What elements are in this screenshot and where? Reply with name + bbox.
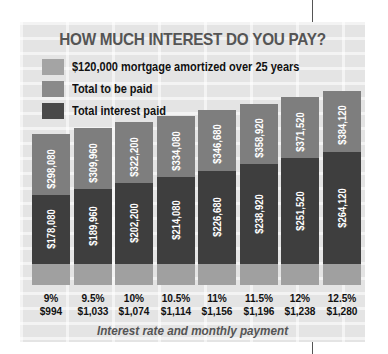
interest-value-label: $189,960 (87, 207, 99, 246)
bar-segment-principal (323, 264, 361, 285)
total-value-label: $334,080 (170, 131, 182, 170)
bar-segment-interest: $226,680 (198, 171, 236, 264)
chart-title: HOW MUCH INTEREST DO YOU PAY? (37, 30, 348, 50)
bar-segment-total: $298,080 (32, 134, 70, 195)
bar-segment-interest: $214,080 (157, 177, 195, 264)
total-value-label: $298,080 (45, 149, 57, 188)
bar-2: $322,200$202,200 (115, 122, 153, 285)
x-tick-label: 9%$994 (29, 292, 73, 318)
leader-line-bottom (312, 342, 313, 354)
bar-5: $358,920$238,920 (240, 104, 278, 285)
x-tick-label: 12%$1,238 (278, 292, 322, 318)
interest-value-label: $251,520 (294, 191, 306, 230)
bar-6: $371,520$251,520 (281, 97, 319, 285)
legend-item-principal: $120,000 mortgage amortized over 25 year… (42, 56, 330, 78)
total-value-label: $322,200 (128, 137, 140, 176)
bar-1: $309,960$189,960 (74, 128, 112, 285)
interest-value-label: $238,920 (253, 194, 265, 233)
bar-segment-interest: $202,200 (115, 183, 153, 264)
x-tick-label: 10.5%$1,114 (154, 292, 198, 318)
legend-swatch-interest (42, 103, 64, 119)
bar-0: $298,080$178,080 (32, 134, 70, 285)
chart-panel: HOW MUCH INTEREST DO YOU PAY? $120,000 m… (20, 22, 365, 342)
legend-swatch-principal (42, 59, 64, 75)
legend-swatch-total (42, 81, 64, 97)
interest-value-label: $214,080 (170, 201, 182, 240)
total-value-label: $371,520 (294, 112, 306, 151)
bar-segment-principal (281, 264, 319, 285)
bar-segment-principal (198, 264, 236, 285)
bar-segment-principal (74, 264, 112, 285)
bar-segment-interest: $189,960 (74, 189, 112, 264)
bar-segment-interest: $178,080 (32, 195, 70, 264)
interest-value-label: $178,080 (45, 210, 57, 249)
bar-segment-total: $309,960 (74, 128, 112, 189)
leader-line-top (312, 0, 313, 22)
legend-label-interest: Total interest paid (72, 104, 166, 118)
bar-segment-total: $334,080 (157, 116, 195, 177)
bar-4: $346,680$226,680 (198, 110, 236, 285)
x-tick-label: 10%$1,074 (112, 292, 156, 318)
bar-7: $384,120$264,120 (323, 91, 361, 285)
interest-value-label: $226,680 (211, 197, 223, 236)
bar-segment-total: $384,120 (323, 91, 361, 152)
bar-segment-principal (32, 264, 70, 285)
bar-segment-total: $371,520 (281, 97, 319, 158)
total-value-label: $384,120 (336, 106, 348, 145)
x-tick-label: 9.5%$1,033 (71, 292, 115, 318)
bar-segment-principal (115, 264, 153, 285)
x-tick-label: 11%$1,156 (195, 292, 239, 318)
bar-segment-total: $322,200 (115, 122, 153, 183)
x-tick-label: 11.5%$1,196 (237, 292, 281, 318)
bar-segment-interest: $264,120 (323, 152, 361, 264)
x-axis-title: Interest rate and monthly payment (37, 323, 348, 338)
bar-segment-total: $358,920 (240, 104, 278, 165)
bar-segment-interest: $238,920 (240, 164, 278, 263)
total-value-label: $309,960 (87, 143, 99, 182)
interest-value-label: $202,200 (128, 204, 140, 243)
bar-segment-principal (157, 264, 195, 285)
total-value-label: $346,680 (211, 125, 223, 164)
x-tick-label: 12.5%$1,280 (320, 292, 364, 318)
bar-segment-principal (240, 264, 278, 285)
bar-segment-interest: $251,520 (281, 158, 319, 264)
bar-3: $334,080$214,080 (157, 116, 195, 285)
legend-label-principal: $120,000 mortgage amortized over 25 year… (72, 60, 299, 74)
total-value-label: $358,920 (253, 118, 265, 157)
legend-label-total: Total to be paid (72, 82, 152, 96)
interest-value-label: $264,120 (336, 188, 348, 227)
bar-segment-total: $346,680 (198, 110, 236, 171)
